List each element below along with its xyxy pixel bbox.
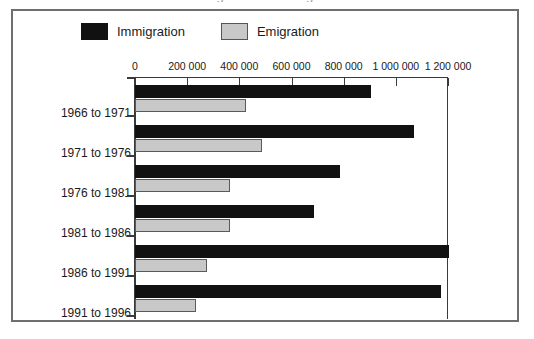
category-label-5: 1991 to 1996	[31, 306, 131, 320]
x-axis-tick-label: 0	[132, 60, 138, 72]
legend-item-emigration: Emigration	[221, 23, 319, 40]
x-axis-tick-label: 400 000	[220, 60, 258, 72]
x-axis-tick-label: 200 000	[168, 60, 206, 72]
legend-label-emigration: Emigration	[257, 25, 319, 38]
x-axis-gridline-tick	[396, 78, 397, 86]
category-label-1: 1971 to 1976	[31, 146, 131, 160]
category-axis-tick	[127, 275, 136, 277]
x-axis-gridline-tick	[448, 78, 449, 86]
bar-emigration-0	[135, 99, 246, 112]
plot-area	[135, 77, 448, 319]
bar-immigration-2	[135, 165, 340, 178]
bar-immigration-1	[135, 125, 414, 138]
bar-immigration-5	[135, 285, 441, 298]
bar-emigration-2	[135, 179, 230, 192]
bar-emigration-3	[135, 219, 230, 232]
cropped-title-remnant: Immigration and emigration	[0, 0, 534, 2]
bar-immigration-0	[135, 85, 371, 98]
bar-emigration-1	[135, 139, 262, 152]
x-axis-tick-label: 1 200 000	[425, 60, 472, 72]
category-axis-tick	[127, 115, 136, 117]
emigration-swatch-icon	[221, 23, 248, 40]
category-label-3: 1981 to 1986	[31, 226, 131, 240]
bar-immigration-4	[135, 245, 449, 258]
bar-emigration-5	[135, 299, 196, 312]
category-axis-tick	[127, 315, 136, 317]
x-axis-tick-label: 1 000 000	[372, 60, 419, 72]
category-axis-tick	[127, 195, 136, 197]
category-axis-tick	[127, 155, 136, 157]
category-label-0: 1966 to 1971	[31, 106, 131, 120]
x-axis-tick-label: 600 000	[273, 60, 311, 72]
bar-emigration-4	[135, 259, 207, 272]
category-label-4: 1986 to 1991	[31, 266, 131, 280]
category-axis-labels: 1966 to 19711971 to 19761976 to 19811981…	[27, 11, 131, 339]
bar-immigration-3	[135, 205, 314, 218]
category-label-2: 1976 to 1981	[31, 186, 131, 200]
x-axis-tick-label: 800 000	[325, 60, 363, 72]
category-axis-line	[134, 77, 136, 319]
figure-frame: Immigration Emigration 0200 000400 00060…	[11, 9, 519, 322]
category-axis-tick-top	[127, 77, 136, 79]
category-axis-tick	[127, 235, 136, 237]
